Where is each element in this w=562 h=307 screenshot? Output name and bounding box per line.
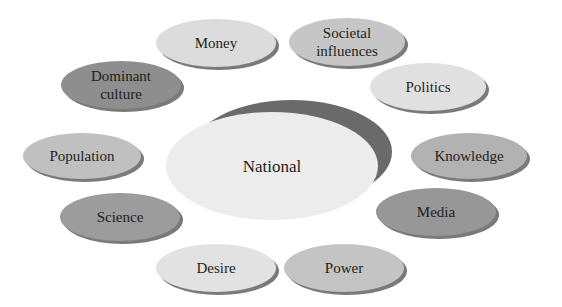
node-label-line: Societal (323, 25, 371, 41)
node-media: Media (376, 188, 499, 239)
node-label-line: Power (325, 260, 363, 276)
node-label-line: Knowledge (434, 148, 503, 164)
node-power: Power (284, 244, 407, 295)
node-label-line: Politics (405, 79, 450, 95)
node-knowledge: Knowledge (411, 133, 530, 182)
node-label-line: culture (100, 86, 142, 102)
node-label-line: Media (417, 204, 456, 220)
node-desire: Desire (156, 244, 279, 295)
node-politics: Politics (370, 63, 489, 114)
node-label: Media (417, 204, 456, 220)
node-label: Money (195, 35, 238, 51)
center-node-label: National (243, 157, 302, 176)
node-label-line: Science (97, 209, 144, 225)
node-label: Population (49, 148, 115, 164)
node-label: Power (325, 260, 363, 276)
node-label: Science (97, 209, 144, 225)
node-label-line: influences (316, 43, 378, 59)
node-label-line: Population (49, 148, 115, 164)
node-label: Desire (196, 260, 235, 276)
node-dominant-culture: Dominantculture (61, 61, 184, 112)
concept-diagram: MoneySocietalinfluencesDominantculturePo… (0, 0, 562, 307)
node-label: Politics (405, 79, 450, 95)
node-science: Science (60, 193, 183, 244)
node-societal-influences: Societalinfluences (289, 18, 408, 69)
node-label-line: Desire (196, 260, 235, 276)
node-money: Money (156, 19, 279, 70)
node-population: Population (23, 133, 144, 182)
node-label-line: Dominant (91, 68, 152, 84)
node-label-line: Money (195, 35, 238, 51)
center-node: National (166, 100, 392, 220)
node-label: Knowledge (434, 148, 503, 164)
